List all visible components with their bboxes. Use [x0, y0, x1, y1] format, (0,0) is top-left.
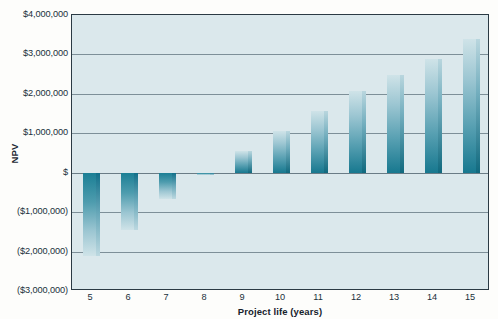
bar-face	[197, 173, 210, 175]
gridline	[72, 54, 488, 55]
x-axis-label: Project life (years)	[71, 306, 489, 317]
bar-face	[425, 59, 438, 173]
y-tick-label: $4,000,000	[2, 9, 68, 19]
y-tick-label: ($3,000,000)	[2, 285, 68, 295]
bar-13	[387, 75, 404, 173]
bar-10	[273, 131, 290, 172]
bar-side	[248, 151, 252, 172]
bar-side	[362, 91, 366, 172]
gridline	[72, 252, 488, 253]
y-tick-label: $1,000,000	[2, 127, 68, 137]
bar-5	[83, 173, 100, 256]
y-tick-label: ($1,000,000)	[2, 206, 68, 216]
bar-9	[235, 151, 252, 172]
bar-side	[476, 39, 480, 172]
y-tick-label: $	[2, 167, 68, 177]
x-tick-label: 15	[450, 292, 490, 302]
x-tick-label: 13	[374, 292, 414, 302]
bar-side	[172, 173, 176, 199]
bar-6	[121, 173, 138, 230]
plot-inner	[72, 15, 488, 289]
bar-side	[324, 111, 328, 173]
bar-8	[197, 173, 214, 175]
bar-side	[438, 59, 442, 173]
bar-14	[425, 59, 442, 173]
bar-15	[463, 39, 480, 172]
bar-7	[159, 173, 176, 199]
bar-side	[400, 75, 404, 173]
bar-side	[134, 173, 138, 230]
plot-area	[71, 14, 489, 290]
bar-face	[273, 131, 286, 172]
y-tick-label: $3,000,000	[2, 48, 68, 58]
bar-side	[96, 173, 100, 256]
npv-bar-chart: NPV $4,000,000$3,000,000$2,000,000$1,000…	[0, 0, 498, 319]
bar-11	[311, 111, 328, 173]
bar-face	[387, 75, 400, 173]
x-tick-label: 10	[260, 292, 300, 302]
bar-side	[210, 173, 214, 175]
y-tick-label: $2,000,000	[2, 88, 68, 98]
x-tick-label: 11	[298, 292, 338, 302]
bar-12	[349, 91, 366, 172]
bar-face	[83, 173, 96, 256]
x-tick-label: 9	[222, 292, 262, 302]
x-tick-label: 8	[184, 292, 224, 302]
x-tick-label: 12	[336, 292, 376, 302]
x-tick-label: 6	[108, 292, 148, 302]
bar-face	[311, 111, 324, 173]
x-tick-label: 7	[146, 292, 186, 302]
x-tick-label: 14	[412, 292, 452, 302]
bar-face	[349, 91, 362, 172]
bar-face	[235, 151, 248, 172]
bar-side	[286, 131, 290, 172]
bar-face	[159, 173, 172, 199]
x-tick-label: 5	[70, 292, 110, 302]
bar-face	[121, 173, 134, 230]
y-tick-label: ($2,000,000)	[2, 246, 68, 256]
bar-face	[463, 39, 476, 172]
y-axis-tick-labels: $4,000,000$3,000,000$2,000,000$1,000,000…	[0, 0, 68, 319]
